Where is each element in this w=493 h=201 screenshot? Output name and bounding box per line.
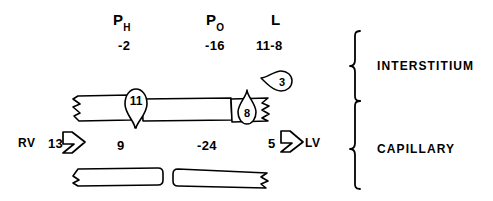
capillary-wall-bottom-right-segment xyxy=(173,169,268,188)
droplet-lymph-shape xyxy=(261,71,292,91)
outflow-vessel-label: LV xyxy=(305,137,320,149)
diagram-vector-layer: 11 8 3 xyxy=(0,0,493,201)
brace-capillary xyxy=(350,101,360,189)
capillary-starling-forces-diagram: PH -2 PO -16 L 11-8 11 8 xyxy=(0,0,493,201)
brace-label-capillary: CAPILLARY xyxy=(377,143,455,155)
outflow-arrow-icon xyxy=(281,131,303,152)
brace-label-interstitium: INTERSTITIUM xyxy=(377,60,474,72)
inflow-vessel-label: RV xyxy=(18,137,35,149)
capillary-wall-bottom-left-segment xyxy=(73,168,163,186)
outflow-value: 5 xyxy=(268,137,276,150)
filtration-droplet-down: 11 xyxy=(125,89,147,128)
droplet-up-value: 8 xyxy=(244,107,250,119)
capillary-hydrostatic-value: 9 xyxy=(117,139,125,152)
capillary-wall-top-left-segment xyxy=(73,95,131,121)
inflow-arrow-icon xyxy=(63,132,85,153)
lymph-droplet-left: 3 xyxy=(261,71,292,91)
droplet-lymph-value: 3 xyxy=(279,76,285,88)
droplet-down-value: 11 xyxy=(130,94,143,108)
capillary-wall-top-middle-segment xyxy=(142,98,232,121)
capillary-oncotic-value: -24 xyxy=(197,139,217,152)
brace-interstitium xyxy=(350,31,360,101)
inflow-value: 13 xyxy=(48,137,63,150)
reabsorption-droplet-up: 8 xyxy=(238,90,256,124)
